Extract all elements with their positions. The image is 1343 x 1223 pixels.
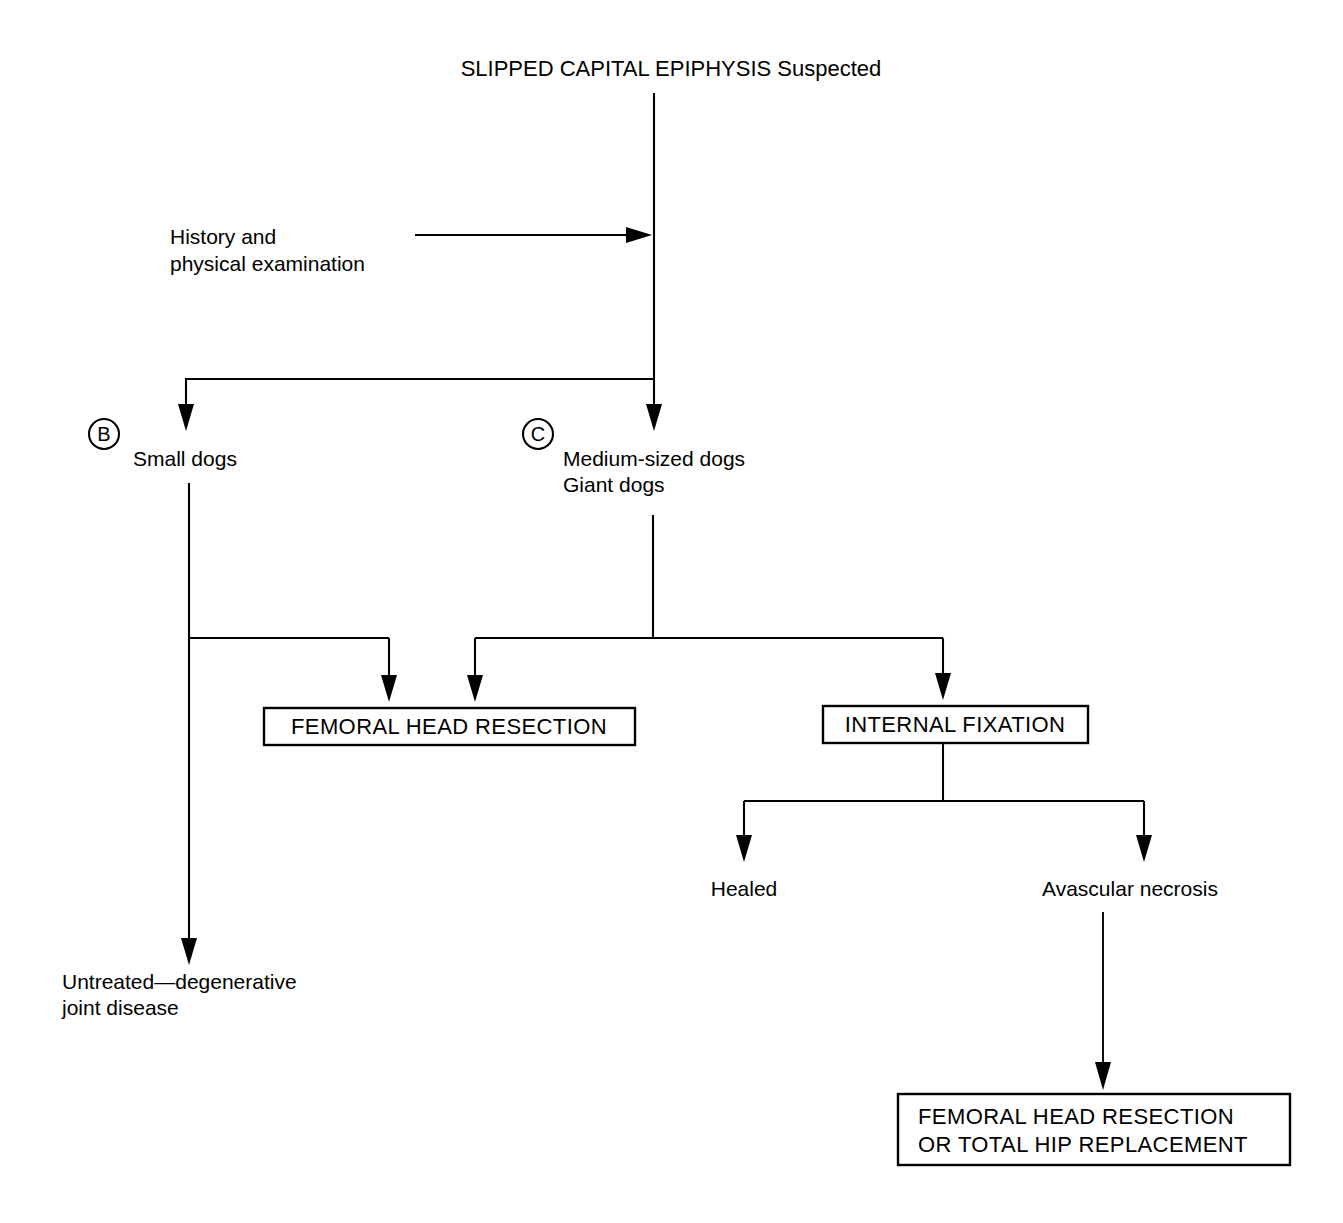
arrowhead-small-dogs [178,404,194,431]
branch-marker-b-letter: B [97,423,110,445]
flowchart-canvas: SLIPPED CAPITAL EPIPHYSIS Suspected Hist… [0,0,1343,1223]
arrowhead-resection-right [467,675,483,702]
arrowhead-untreated [181,938,197,965]
arrowhead-assessment [626,227,652,243]
salvage-label-line2: OR TOTAL HIP REPLACEMENT [918,1132,1248,1157]
flowchart-svg: SLIPPED CAPITAL EPIPHYSIS Suspected Hist… [0,0,1343,1223]
arrowhead-healed [736,835,752,862]
branch-c-label-line2: Giant dogs [563,473,665,496]
arrowhead-fixation [935,673,951,700]
salvage-label-line1: FEMORAL HEAD RESECTION [918,1104,1234,1129]
assessment-label-line2: physical examination [170,252,365,275]
treatment-resection-label: FEMORAL HEAD RESECTION [291,714,607,739]
outcome-healed-label: Healed [711,877,778,900]
assessment-label-line1: History and [170,225,276,248]
branch-marker-c-letter: C [531,423,545,445]
outcome-necrosis-label: Avascular necrosis [1042,877,1218,900]
arrowhead-salvage [1095,1062,1111,1090]
arrowhead-medium-dogs [646,404,662,431]
outcome-untreated-label-line2: joint disease [61,996,179,1019]
branch-b-label: Small dogs [133,447,237,470]
arrowhead-necrosis [1136,835,1152,862]
outcome-untreated-label-line1: Untreated—degenerative [62,970,297,993]
root-node-label: SLIPPED CAPITAL EPIPHYSIS Suspected [461,56,882,81]
arrowhead-resection-left [381,675,397,702]
branch-c-label-line1: Medium-sized dogs [563,447,745,470]
treatment-fixation-label: INTERNAL FIXATION [845,712,1066,737]
